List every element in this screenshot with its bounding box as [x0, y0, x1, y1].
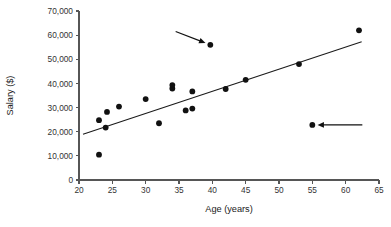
y-tick-group: 010,00020,00030,00040,00050,00060,00070,…	[48, 6, 79, 185]
x-tick-label: 40	[208, 185, 218, 195]
regression-line	[83, 42, 362, 134]
data-point	[96, 117, 102, 123]
y-tick-label: 60,000	[48, 30, 74, 40]
data-point	[156, 120, 162, 126]
data-point	[183, 108, 189, 114]
x-tick-label: 60	[341, 185, 351, 195]
data-point	[116, 104, 122, 110]
data-point	[189, 88, 195, 94]
data-point	[223, 86, 229, 92]
y-tick-label: 70,000	[48, 6, 74, 16]
data-point	[189, 106, 195, 112]
x-tick-label: 20	[74, 185, 84, 195]
data-point	[309, 122, 315, 128]
y-axis-group: 010,00020,00030,00040,00050,00060,00070,…	[48, 6, 79, 185]
x-axis-group: 20253035404550556065	[74, 180, 384, 195]
y-tick-label: 50,000	[48, 54, 74, 64]
data-point	[169, 82, 175, 88]
scatter-plot-figure: 010,00020,00030,00040,00050,00060,00070,…	[0, 0, 391, 227]
y-tick-label: 0	[68, 175, 73, 185]
data-point	[96, 152, 102, 158]
x-tick-label: 65	[374, 185, 384, 195]
y-axis-title: Salary ($)	[5, 76, 15, 116]
x-tick-label: 30	[141, 185, 151, 195]
y-tick-label: 40,000	[48, 79, 74, 89]
data-point	[243, 77, 249, 83]
x-tick-label: 35	[174, 185, 184, 195]
upper-outlier-arrow-head	[198, 38, 205, 43]
y-tick-label: 10,000	[48, 151, 74, 161]
upper-outlier-arrow-shaft	[176, 32, 202, 42]
y-tick-label: 30,000	[48, 103, 74, 113]
annotation-arrows-group	[176, 32, 363, 128]
x-tick-label: 55	[308, 185, 318, 195]
x-tick-label: 45	[241, 185, 251, 195]
data-point	[103, 125, 109, 131]
chart-canvas: 010,00020,00030,00040,00050,00060,00070,…	[0, 0, 391, 227]
x-tick-label: 25	[108, 185, 118, 195]
data-point	[143, 96, 149, 102]
data-point	[104, 109, 110, 115]
x-tick-group: 20253035404550556065	[74, 180, 384, 195]
data-point	[296, 61, 302, 67]
x-axis-title: Age (years)	[205, 204, 253, 214]
data-points-group	[96, 27, 362, 157]
trend-line-group	[83, 42, 362, 134]
x-tick-label: 50	[274, 185, 284, 195]
lower-outlier-arrow-head	[318, 122, 324, 128]
y-tick-label: 20,000	[48, 127, 74, 137]
data-point	[356, 27, 362, 33]
data-point	[207, 42, 213, 48]
